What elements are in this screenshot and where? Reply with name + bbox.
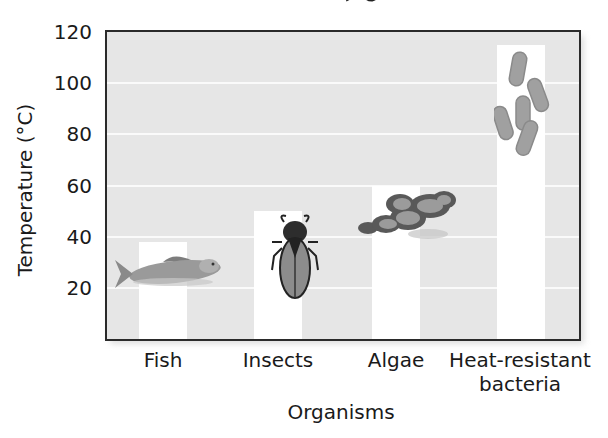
x-axis-label: Organisms [287,400,394,424]
y-tick-label: 100 [52,73,92,93]
title-descenders-icon [0,0,608,6]
x-tick-label: Algae [368,348,425,372]
insect-icon [270,212,320,302]
x-tick-label: Heat-resistantbacteria [449,348,591,396]
chart-title-cropped [0,0,608,6]
y-tick-label: 120 [52,22,92,42]
x-tick-label: Insects [243,348,314,372]
y-axis-label: Temperature (°C) [13,104,37,277]
y-tick-label: 60 [52,176,92,196]
y-tick-label: 20 [52,278,92,298]
y-tick-label: 80 [52,124,92,144]
y-tick-label: 40 [52,227,92,247]
x-tick-label: Fish [144,348,183,372]
fish-icon [113,246,225,294]
bacteria-icon [494,50,556,164]
algae-icon [358,184,458,242]
